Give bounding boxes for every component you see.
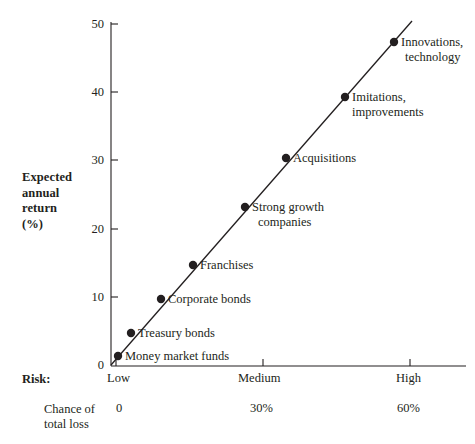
trend-line [111, 21, 412, 365]
point-label-strong-growth-companies: Strong growth companies [252, 200, 324, 229]
data-point-marker [282, 154, 290, 162]
x-tick-label-high: High [396, 372, 421, 385]
chance-value-medium: 30% [250, 402, 273, 415]
point-label-money-market-funds: Money market funds [125, 349, 229, 364]
data-point-marker [114, 352, 122, 360]
point-label-innovations-technology: Innovations, technology [401, 35, 463, 64]
y-axis-title-line-1: Expected [22, 170, 104, 186]
data-point-marker [157, 295, 165, 303]
chance-value-low: 0 [116, 402, 122, 415]
chance-of-total-loss-label: Chance of total loss [44, 402, 95, 431]
chance-label-line: Chance of [44, 402, 95, 417]
point-label-line: Corporate bonds [168, 292, 251, 307]
y-tick-label-0: 0 [78, 359, 104, 372]
y-axis-title-line-3: return [22, 201, 104, 217]
point-label-imitations-improvements: Imitations, improvements [352, 90, 424, 119]
data-point-marker [341, 93, 349, 101]
y-axis-title-line-2: annual [22, 186, 104, 202]
point-label-line: improvements [352, 105, 424, 120]
point-label-line: Acquisitions [293, 151, 356, 166]
point-label-treasury-bonds: Treasury bonds [138, 326, 215, 341]
point-label-line: Franchises [200, 258, 253, 273]
point-label-line: Treasury bonds [138, 326, 215, 341]
y-tick-label-50: 50 [78, 18, 104, 31]
y-tick-label-20: 20 [78, 223, 104, 236]
data-point-marker [127, 329, 135, 337]
chart-figure: Expected annual return (%) 50 40 30 20 1… [0, 0, 475, 444]
point-label-line: Innovations, [401, 35, 463, 50]
y-tick-label-30: 30 [78, 154, 104, 167]
point-label-line: Imitations, [352, 90, 424, 105]
risk-row-label-text: Risk: [22, 372, 50, 387]
x-tick-label-low: Low [107, 372, 130, 385]
y-tick-label-40: 40 [78, 86, 104, 99]
point-label-line: companies [258, 215, 324, 230]
data-point-marker [241, 203, 249, 211]
point-label-franchises: Franchises [200, 258, 253, 273]
y-tick-label-10: 10 [78, 291, 104, 304]
risk-row-label: Risk: [22, 372, 50, 387]
data-point-marker [189, 261, 197, 269]
point-label-corporate-bonds: Corporate bonds [168, 292, 251, 307]
chance-value-high: 60% [397, 402, 420, 415]
point-label-acquisitions: Acquisitions [293, 151, 356, 166]
y-ticks [111, 24, 118, 297]
x-tick-label-medium: Medium [238, 372, 280, 385]
point-label-line: technology [405, 50, 463, 65]
point-label-line: Money market funds [125, 349, 229, 364]
chance-label-line: total loss [44, 417, 95, 432]
data-point-marker [390, 38, 398, 46]
point-label-line: Strong growth [252, 200, 324, 215]
